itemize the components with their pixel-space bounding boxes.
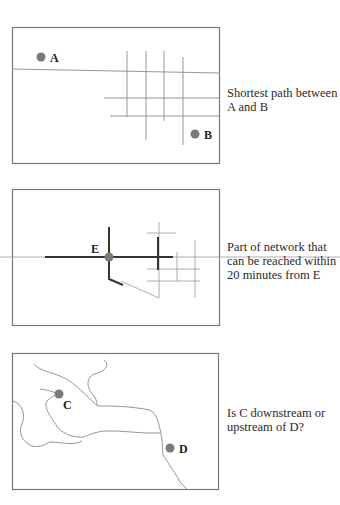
point-c-label: C <box>63 398 72 412</box>
point-d-label: D <box>179 442 188 456</box>
river-line <box>163 455 188 490</box>
caption-river-flow: Is C downstream or upstream of D? <box>227 406 325 434</box>
point-d-marker <box>166 444 175 453</box>
river-line <box>88 360 107 406</box>
river-lines <box>13 360 188 490</box>
map-frame <box>13 354 219 490</box>
panel-river-flow: C D Is C downstream or upstream of D? <box>0 0 340 505</box>
